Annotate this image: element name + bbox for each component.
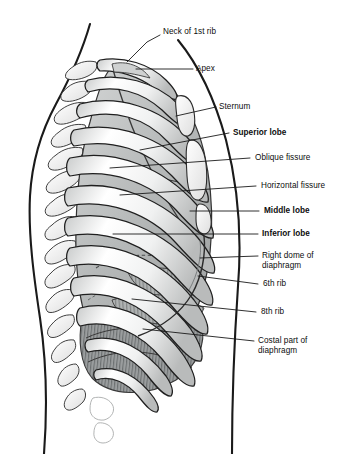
label-right-dome-of-diaphragm: Right dome of diaphragm (262, 251, 314, 271)
label-oblique-fissure: Oblique fissure (255, 153, 310, 163)
label-sternum: Sternum (219, 102, 250, 112)
label-middle-lobe: Middle lobe (264, 206, 310, 216)
label-6th-rib: 6th rib (263, 279, 286, 289)
label-neck-of-1st-rib: Neck of 1st rib (163, 27, 216, 37)
leader-neck-of-1st-rib (127, 35, 160, 62)
label-costal-part-of-diaphragm: Costal part of diaphragm (258, 336, 307, 356)
label-8th-rib: 8th rib (261, 307, 284, 317)
label-horizontal-fissure: Horizontal fissure (261, 181, 325, 191)
label-superior-lobe: Superior lobe (233, 128, 286, 138)
anatomy-figure: Neck of 1st ribApexSternumSuperior lobeO… (0, 0, 346, 454)
thorax-illustration (0, 0, 346, 454)
label-apex: Apex (196, 64, 215, 74)
label-inferior-lobe: Inferior lobe (262, 229, 310, 239)
lumbar-vertebrae (90, 397, 114, 443)
